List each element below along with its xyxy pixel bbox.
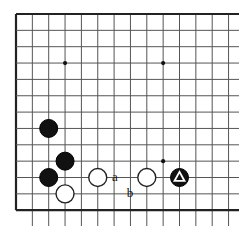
stone-disc	[138, 169, 156, 187]
stone-disc	[56, 185, 74, 203]
board-point-label: a	[112, 170, 118, 183]
star-point	[161, 61, 165, 65]
black-stone[interactable]	[40, 119, 58, 137]
white-stone[interactable]	[56, 185, 74, 203]
board-point-label: b	[127, 186, 134, 199]
white-stone[interactable]	[138, 169, 156, 187]
star-point	[63, 61, 67, 65]
black-stone[interactable]	[56, 152, 74, 170]
black-stone[interactable]	[171, 169, 189, 187]
go-board-diagram: ab	[0, 0, 239, 226]
goban-grid	[0, 0, 239, 226]
stone-disc	[56, 152, 74, 170]
white-stone[interactable]	[89, 169, 107, 187]
stone-disc	[89, 169, 107, 187]
stone-disc	[40, 169, 58, 187]
stone-disc	[40, 119, 58, 137]
black-stone[interactable]	[40, 169, 58, 187]
star-point	[161, 159, 165, 163]
